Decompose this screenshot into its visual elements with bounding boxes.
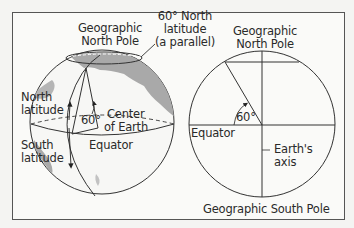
label-line: North Pole [70, 35, 150, 48]
cross-section [189, 45, 335, 197]
right-north-pole-label: Geographic North Pole [225, 25, 305, 51]
left-north-pole-label: Geographic North Pole [70, 22, 150, 48]
label-line: latitude [21, 104, 64, 117]
label-line: axis [274, 156, 313, 169]
left-equator-label: Equator [89, 139, 133, 152]
south-latitude-label: South latitude [21, 139, 64, 165]
left-angle-label: 60° [81, 114, 101, 127]
right-angle-label: 60° [236, 111, 256, 124]
north-latitude-label: North latitude [21, 91, 64, 117]
globe [30, 44, 176, 196]
earth-axis-label: Earth's axis [274, 143, 313, 169]
label-line: North Pole [225, 38, 305, 51]
center-of-earth-label: Center of Earth [104, 108, 148, 134]
label-line: (a parallel) [152, 36, 218, 49]
label-line: of Earth [104, 121, 148, 134]
right-equator-label: Equator [191, 127, 235, 140]
parallel-label: 60° North latitude (a parallel) [152, 10, 218, 49]
label-line: latitude [21, 152, 64, 165]
south-pole-label: Geographic South Pole [203, 203, 330, 216]
